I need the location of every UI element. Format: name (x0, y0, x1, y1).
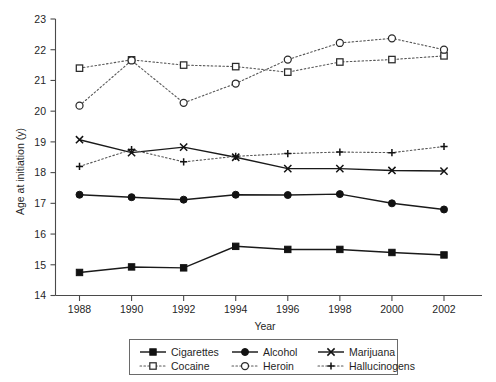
data-point-filled-circle (76, 191, 83, 198)
data-point-filled-square (337, 246, 343, 252)
x-tick-label: 2000 (380, 303, 404, 315)
y-tick-label: 18 (34, 166, 46, 178)
data-point-filled-square (76, 269, 82, 275)
data-point-filled-circle (284, 192, 291, 199)
legend-item-cigarettes[interactable]: Cigarettes (140, 346, 219, 358)
data-point-open-circle (242, 363, 249, 370)
data-point-open-circle (388, 35, 395, 42)
legend-item-label: Cocaine (171, 360, 210, 372)
data-point-open-circle (76, 102, 83, 109)
data-point-filled-square (389, 249, 395, 255)
legend-item-marijuana[interactable]: Marijuana (318, 346, 395, 358)
legend-item-heroin[interactable]: Heroin (232, 360, 294, 372)
data-point-filled-circle (180, 196, 187, 203)
data-point-plus (284, 150, 291, 157)
data-point-filled-square (233, 243, 239, 249)
data-point-filled-square (150, 349, 156, 355)
data-point-filled-circle (128, 194, 135, 201)
y-axis-ticks: 14151617181920212223 (34, 13, 55, 302)
series-markers-hallucinogens (76, 143, 448, 170)
data-point-filled-square (128, 264, 134, 270)
data-point-open-circle (441, 46, 448, 53)
x-tick-label: 1996 (276, 303, 300, 315)
y-tick-label: 14 (34, 289, 46, 301)
x-axis-ticks: 19881990199219941996199820002002 (68, 296, 456, 316)
y-tick-label: 15 (34, 259, 46, 271)
y-axis-title-text: Age at initiation (y) (14, 128, 26, 215)
x-tick-label: 1994 (224, 303, 248, 315)
data-point-plus (440, 143, 447, 150)
data-point-open-circle (284, 56, 291, 63)
legend: CigarettesAlcoholMarijuanaCocaineHeroinH… (130, 340, 415, 375)
legend-item-cocaine[interactable]: Cocaine (140, 360, 210, 372)
y-tick-label: 17 (34, 197, 46, 209)
data-point-open-circle (336, 39, 343, 46)
legend-item-label: Marijuana (349, 346, 395, 358)
data-point-filled-circle (242, 349, 249, 356)
data-point-filled-square (441, 252, 447, 258)
series-line-heroin (80, 38, 445, 105)
y-tick-label: 21 (34, 74, 46, 86)
y-tick-label: 20 (34, 105, 46, 117)
series-markers-alcohol (76, 191, 448, 213)
data-point-open-square (389, 56, 395, 62)
data-point-filled-circle (336, 191, 343, 198)
legend-item-hallucinogens[interactable]: Hallucinogens (318, 360, 415, 372)
legend-items-group: CigarettesAlcoholMarijuanaCocaineHeroinH… (140, 346, 415, 372)
line-chart-svg: Age at initiation (y) 141516171819202122… (0, 0, 496, 382)
data-point-plus (336, 148, 343, 155)
data-point-open-circle (232, 80, 239, 87)
data-point-filled-circle (232, 191, 239, 198)
y-tick-label: 16 (34, 228, 46, 240)
x-tick-label: 1988 (68, 303, 92, 315)
data-point-plus (388, 149, 395, 156)
data-point-filled-square (180, 265, 186, 271)
data-point-open-circle (128, 57, 135, 64)
data-point-open-square (76, 65, 82, 71)
data-point-open-square (233, 63, 239, 69)
data-point-open-square (285, 69, 291, 75)
legend-item-label: Hallucinogens (349, 360, 415, 372)
x-tick-label: 1990 (120, 303, 144, 315)
data-point-open-square (337, 59, 343, 65)
data-point-open-circle (180, 99, 187, 106)
legend-item-label: Cigarettes (171, 346, 219, 358)
data-point-plus (180, 158, 187, 165)
y-tick-label: 23 (34, 13, 46, 25)
series-markers-group (76, 35, 448, 276)
x-axis-title-text: Year (254, 320, 276, 332)
y-tick-label: 22 (34, 44, 46, 56)
x-tick-label: 1992 (172, 303, 196, 315)
data-point-filled-circle (441, 206, 448, 213)
data-point-open-square (180, 62, 186, 68)
y-tick-label: 19 (34, 136, 46, 148)
data-point-filled-circle (388, 200, 395, 207)
legend-item-label: Heroin (263, 360, 294, 372)
x-tick-label: 1998 (328, 303, 352, 315)
legend-item-alcohol[interactable]: Alcohol (232, 346, 297, 358)
legend-item-label: Alcohol (263, 346, 297, 358)
y-axis-title: Age at initiation (y) (14, 128, 26, 215)
data-point-plus (327, 362, 334, 369)
data-point-plus (76, 163, 83, 170)
data-point-open-square (150, 363, 156, 369)
data-point-filled-square (285, 246, 291, 252)
chart-figure: Age at initiation (y) 141516171819202122… (0, 0, 496, 382)
x-tick-label: 2002 (432, 303, 456, 315)
